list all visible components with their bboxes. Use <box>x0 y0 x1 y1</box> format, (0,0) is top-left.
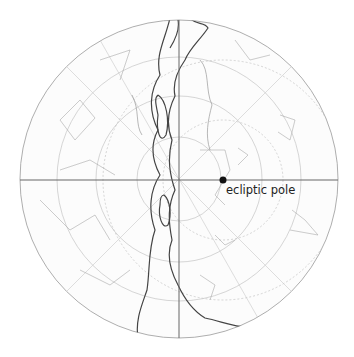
star-chart: ecliptic pole <box>0 0 354 357</box>
ecliptic-pole-label: ecliptic pole <box>226 183 295 197</box>
